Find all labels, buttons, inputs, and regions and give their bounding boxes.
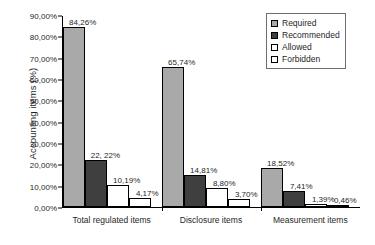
- bar[interactable]: 1,39%: [305, 204, 327, 207]
- y-tick-label: 40,00%: [12, 118, 57, 127]
- x-axis-labels: Total regulated itemsDisclosure itemsMea…: [62, 215, 360, 225]
- bar-value-label: 4,17%: [136, 189, 159, 198]
- bar[interactable]: 14,81%: [184, 175, 206, 207]
- x-axis-category-label: Total regulated items: [62, 215, 161, 225]
- bar[interactable]: 10,19%: [107, 185, 129, 207]
- bar-group: 65,74%14,81%8,80%3,70%: [162, 16, 261, 207]
- legend-swatch-icon: [271, 20, 278, 27]
- bar-value-label: 0,46%: [334, 196, 357, 205]
- bar[interactable]: 3,70%: [228, 199, 250, 207]
- legend-item[interactable]: Recommended: [271, 29, 340, 41]
- legend: RequiredRecommendedAllowedForbidden: [266, 13, 346, 69]
- legend-label: Forbidden: [282, 54, 320, 64]
- bar[interactable]: 7,41%: [283, 191, 305, 207]
- y-tick-label: 20,00%: [12, 161, 57, 170]
- legend-item[interactable]: Required: [271, 17, 340, 29]
- y-tick-label: 90,00%: [12, 12, 57, 21]
- bar[interactable]: 0,46%: [327, 205, 349, 207]
- bar-slot: 84,26%: [63, 16, 85, 207]
- legend-item[interactable]: Allowed: [271, 41, 340, 53]
- y-tick-label: 10,00%: [12, 182, 57, 191]
- bar-chart: Accounting items (%) 90,00%80,00%70,00%6…: [0, 0, 375, 245]
- legend-swatch-icon: [271, 44, 278, 51]
- y-axis-ticks: 90,00%80,00%70,00%60,00%50,00%40,00%30,0…: [12, 16, 57, 208]
- legend-swatch-icon: [271, 32, 278, 39]
- bar[interactable]: 18,52%: [261, 168, 283, 208]
- x-axis-category-label: Measurement items: [261, 215, 360, 225]
- bar-slot: 4,17%: [129, 16, 151, 207]
- bar[interactable]: 84,26%: [63, 27, 85, 207]
- legend-label: Required: [282, 18, 317, 28]
- bar[interactable]: 65,74%: [162, 67, 184, 207]
- legend-label: Recommended: [282, 30, 340, 40]
- bar-slot: 3,70%: [228, 16, 250, 207]
- bar-slot: 65,74%: [162, 16, 184, 207]
- y-tick-label: 0,00%: [12, 204, 57, 213]
- legend-swatch-icon: [271, 56, 278, 63]
- bar-slot: 14,81%: [184, 16, 206, 207]
- bar-slot: 10,19%: [107, 16, 129, 207]
- bar-slot: 22, 22%: [85, 16, 107, 207]
- x-axis-category-label: Disclosure items: [161, 215, 260, 225]
- legend-item[interactable]: Forbidden: [271, 53, 340, 65]
- bar-value-label: 3,70%: [235, 190, 258, 199]
- y-tick-label: 50,00%: [12, 97, 57, 106]
- y-tick-label: 60,00%: [12, 76, 57, 85]
- legend-label: Allowed: [282, 42, 312, 52]
- bar[interactable]: 8,80%: [206, 188, 228, 207]
- bar[interactable]: 22, 22%: [85, 160, 107, 207]
- group-divider-tick: [261, 207, 262, 211]
- group-divider-tick: [162, 207, 163, 211]
- x-axis-line: [62, 207, 360, 208]
- bar-slot: 8,80%: [206, 16, 228, 207]
- y-tick-label: 30,00%: [12, 140, 57, 149]
- bar[interactable]: 4,17%: [129, 198, 151, 207]
- bar-group: 84,26%22, 22%10,19%4,17%: [63, 16, 162, 207]
- y-tick-label: 80,00%: [12, 33, 57, 42]
- y-tick-label: 70,00%: [12, 54, 57, 63]
